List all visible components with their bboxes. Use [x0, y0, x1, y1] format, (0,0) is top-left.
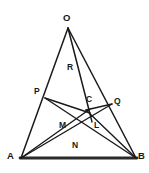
segment-OA — [21, 28, 68, 158]
segment-AC — [21, 109, 90, 158]
label-point-M: M — [59, 121, 66, 130]
label-region-R: R — [67, 63, 73, 72]
segment-BC — [86, 110, 136, 158]
label-point-A: A — [7, 151, 14, 161]
label-region-N: N — [72, 141, 78, 150]
label-point-P: P — [34, 87, 40, 96]
segment-OB — [68, 28, 136, 158]
segment-PC — [45, 98, 90, 113]
label-point-B: B — [138, 151, 145, 161]
label-point-C: C — [86, 95, 92, 104]
geometry-figure: O A B P Q C M L R N — [0, 0, 149, 173]
label-point-Q: Q — [114, 97, 121, 106]
label-point-O: O — [63, 13, 71, 23]
label-point-L: L — [94, 121, 99, 130]
